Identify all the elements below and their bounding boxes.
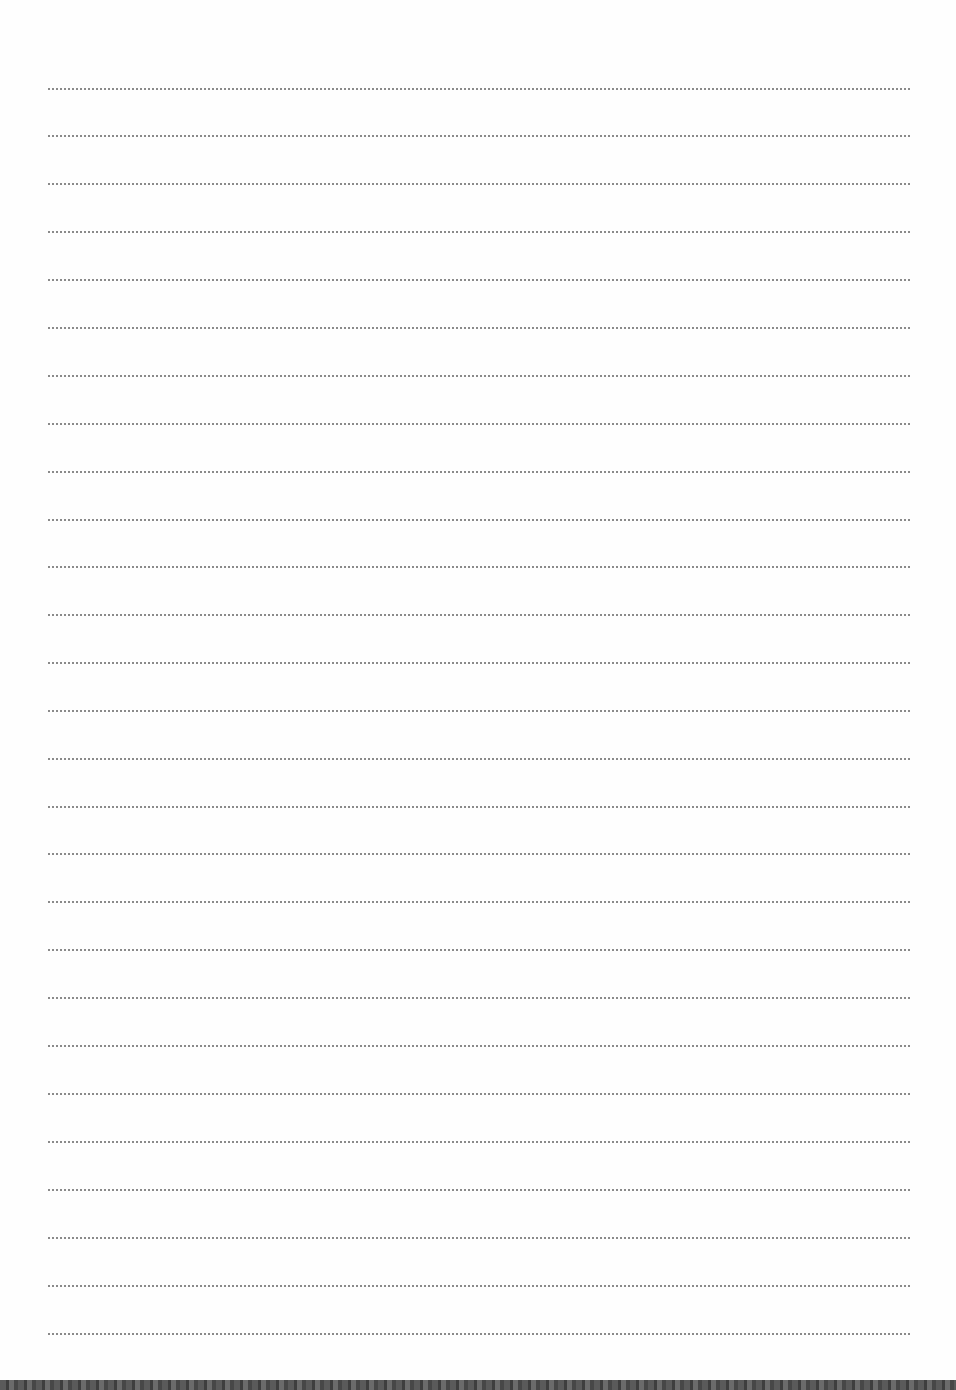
writing-line — [48, 662, 910, 664]
page-bottom-edge — [0, 1380, 956, 1390]
writing-line — [48, 710, 910, 712]
writing-line — [48, 1333, 910, 1335]
writing-line — [48, 614, 910, 616]
writing-line — [48, 375, 910, 377]
writing-line — [48, 806, 910, 808]
writing-line — [48, 1045, 910, 1047]
writing-line — [48, 853, 910, 855]
writing-line — [48, 327, 910, 329]
writing-line — [48, 279, 910, 281]
writing-line — [48, 135, 910, 137]
writing-line — [48, 901, 910, 903]
writing-line — [48, 231, 910, 233]
writing-line — [48, 1141, 910, 1143]
writing-line — [48, 758, 910, 760]
writing-line — [48, 423, 910, 425]
writing-line — [48, 471, 910, 473]
writing-line — [48, 949, 910, 951]
writing-line — [48, 519, 910, 521]
writing-line — [48, 1237, 910, 1239]
writing-line — [48, 997, 910, 999]
writing-line — [48, 566, 910, 568]
writing-line — [48, 183, 910, 185]
writing-line — [48, 1285, 910, 1287]
ruled-page — [0, 0, 956, 1380]
writing-line — [48, 1189, 910, 1191]
writing-line — [48, 88, 910, 90]
writing-line — [48, 1093, 910, 1095]
